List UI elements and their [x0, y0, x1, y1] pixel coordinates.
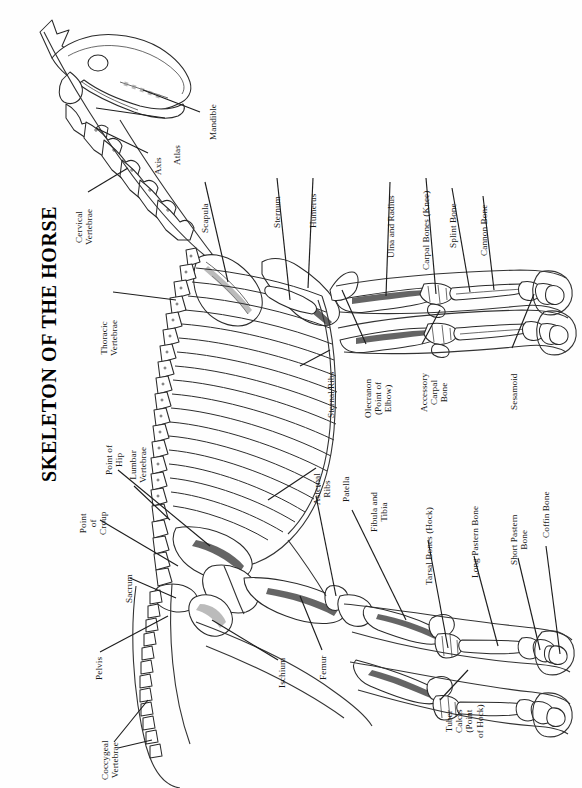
page-title: SKELETON OF THE HORSE: [38, 206, 61, 482]
label-carpal-bones-knee: Carpal Bones (Knee): [421, 191, 431, 270]
label-pelvis: Pelvis: [94, 657, 104, 680]
label-mandible: Mandible: [208, 104, 218, 140]
label-atlas: Atlas: [172, 145, 182, 165]
label-humerus: Humerus: [308, 194, 318, 228]
label-scapula: Scapula: [200, 203, 210, 233]
lumbar-sacrum-pelvis-group: [133, 504, 372, 788]
label-axis: Axis: [153, 157, 163, 175]
label-tarsal-bones-hock: Tarsal Bones (Hock): [424, 507, 434, 585]
label-asternal-ribs: Asternal Ribs: [312, 473, 332, 505]
label-thoracic-vertebrae: Thoracic Vertebrae: [99, 320, 119, 356]
label-sternal-ribs: Sternal Ribs: [326, 372, 336, 418]
label-cannon-bone: Cannon Bone: [479, 205, 489, 256]
label-long-pastern-bone: Long Pastern Bone: [470, 506, 480, 578]
label-coffin-bone: Coffin Bone: [541, 491, 551, 538]
label-splint-bone: Splint Bone: [448, 203, 458, 248]
label-patella: Patella: [341, 476, 351, 502]
label-point-of-croup: Point of Croup: [78, 512, 109, 535]
skeleton-of-the-horse-figure: SKELETON OF THE HORSE Mandible Atlas Axi…: [0, 0, 582, 788]
label-sacrum: Sacrum: [124, 574, 134, 603]
label-sternum: Sternum: [272, 196, 282, 228]
label-ulna-and-radius: Ulna and Radius: [386, 195, 396, 258]
label-cervical-vertebrae: Cervical Vertebrae: [74, 209, 94, 245]
hind-leg-near-group: [244, 578, 574, 675]
skull-group: [40, 20, 191, 118]
label-short-pastern-bone: Short Pastern Bone: [509, 514, 529, 565]
label-accessory-carpal-bone: Accessory Carpal Bone: [419, 373, 450, 412]
label-olecranon: Olecranon (Point of Elbow): [363, 379, 394, 418]
front-leg-near-group: [338, 310, 576, 357]
label-sesamoid: Sesamoid: [509, 373, 519, 410]
label-fibula-and-tibia: Fibula and Tibia: [369, 492, 389, 532]
label-tuber-calcis: Tuber Calcis (Point of Hock): [444, 704, 485, 738]
label-femur: Femur: [318, 656, 328, 681]
label-point-of-hip: Point of Hip: [104, 445, 124, 475]
label-coccygeal-vertebrae: Coccygeal Vertebrae: [100, 740, 120, 780]
label-lumbar-vertebrae: Lumbar Vertebrae: [128, 447, 148, 483]
horse-skeleton-artwork: [0, 0, 582, 788]
label-ischium: Ischium: [277, 658, 287, 688]
